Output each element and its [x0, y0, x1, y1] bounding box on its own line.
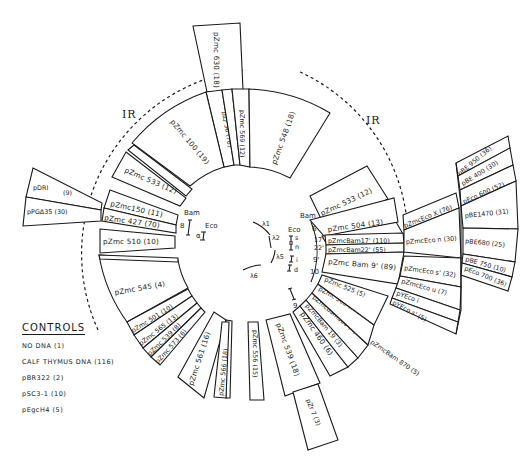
svg-text:9': 9' — [313, 256, 319, 264]
control-calf-thymus: CALF THYMUS DNA (116) — [22, 356, 114, 372]
bam-label-right: Bam — [300, 212, 316, 220]
bam-label-left: Bam — [184, 209, 200, 217]
svg-text:pZmc 510 (10): pZmc 510 (10) — [103, 237, 159, 246]
svg-text:17': 17' — [314, 236, 324, 244]
svg-text:9: 9 — [293, 302, 297, 310]
svg-text:(9): (9) — [63, 189, 72, 197]
segment-pzmcbam870: pZmcBam 870 (5) — [369, 338, 421, 378]
segment-pzmc556: pZmc 556 (15) — [248, 322, 264, 400]
svg-text:pDRI: pDRI — [33, 184, 48, 192]
svg-text:α: α — [196, 232, 201, 240]
control-psc3-1: pSC3-1 (10) — [22, 388, 114, 404]
svg-text:pZmc 569 (12): pZmc 569 (12) — [238, 110, 246, 158]
svg-text:λ1: λ1 — [262, 220, 270, 228]
control-pbr322: pBR322 (2) — [22, 372, 114, 388]
svg-text:22': 22' — [314, 244, 324, 252]
controls-title: CONTROLS — [22, 322, 85, 335]
segment-pzmc510: pZmc 510 (10) — [100, 229, 175, 253]
ir-label-left: IR — [122, 108, 137, 121]
ir-label-right: IR — [366, 114, 381, 127]
svg-text:λ5: λ5 — [276, 253, 284, 261]
svg-text:pZmc 630 (18): pZmc 630 (18) — [212, 32, 221, 88]
segment-pzmc548: pZmc 548 (18) — [249, 89, 330, 178]
eco-label-right: Eco — [288, 226, 301, 234]
svg-text:6: 6 — [312, 225, 317, 233]
controls-legend: CONTROLS NO DNA (1) CALF THYMUS DNA (116… — [22, 316, 114, 420]
svg-text:pPGΔ35 (30): pPGΔ35 (30) — [27, 208, 68, 216]
svg-text:i: i — [296, 256, 298, 264]
svg-text:8: 8 — [180, 222, 184, 230]
control-no-dna: NO DNA (1) — [22, 340, 114, 356]
bam-tick-left — [186, 220, 192, 235]
svg-text:λ6: λ6 — [250, 272, 258, 280]
svg-text:d: d — [294, 266, 298, 274]
control-pegch4: pEgcH4 (5) — [22, 404, 114, 420]
svg-text:λ2: λ2 — [272, 234, 280, 242]
svg-text:s: s — [295, 234, 299, 242]
eco-label-left: Eco — [205, 222, 218, 230]
svg-text:10: 10 — [310, 268, 319, 276]
svg-text:pZmc 556 (15): pZmc 556 (15) — [251, 330, 259, 378]
segment-pzr7: pZr 7 (3) — [293, 384, 338, 450]
svg-text:n: n — [295, 243, 299, 251]
